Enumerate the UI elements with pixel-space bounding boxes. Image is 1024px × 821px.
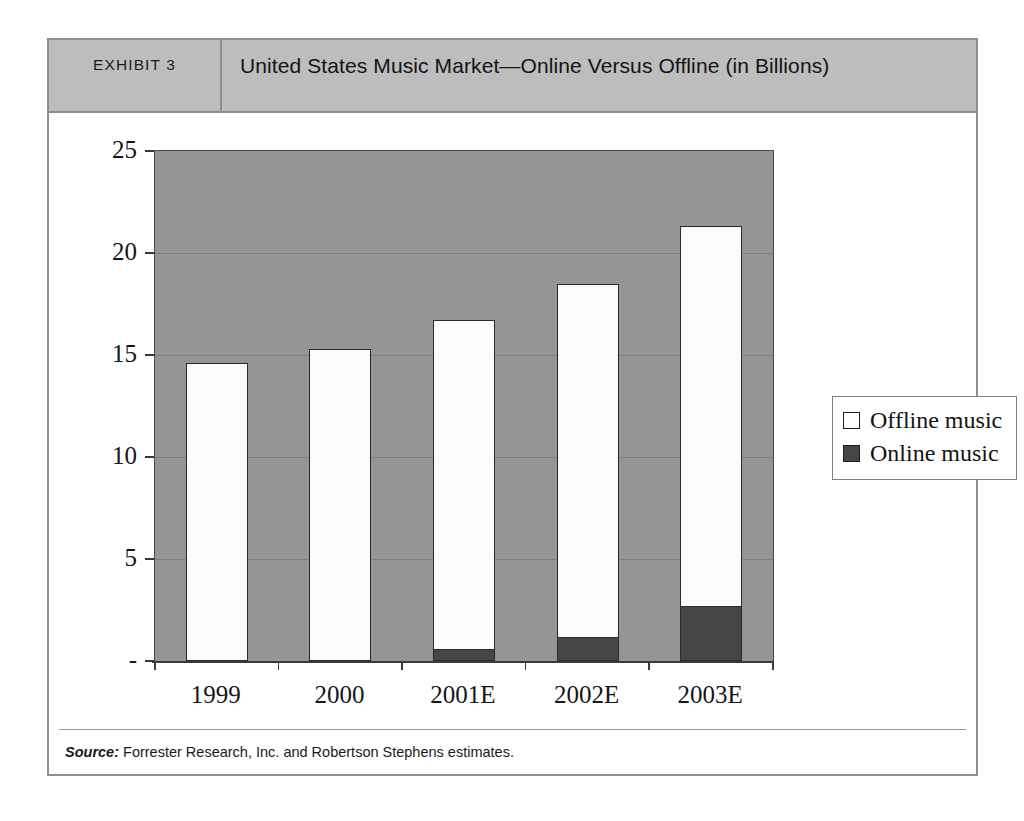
x-tick-label: 2003E [678,681,743,709]
x-tick-mark [772,661,774,670]
source-note: Source: Forrester Research, Inc. and Rob… [65,744,514,760]
x-tick-label: 2001E [430,681,495,709]
y-tick-label: 25 [112,136,137,164]
x-axis-line [152,661,774,663]
bar-segment-online [680,606,742,661]
bar-group [680,226,742,661]
x-tick-label: 1999 [191,681,241,709]
bar-segment-offline [680,226,742,605]
y-tick-mark [145,456,154,458]
source-divider [59,729,966,730]
y-tick-mark [145,558,154,560]
legend-swatch-online-icon [843,445,860,462]
chart-legend: Offline music Online music [832,396,1017,480]
bar-group [186,363,248,661]
bar-group [433,320,495,661]
exhibit-container: EXHIBIT 3 United States Music Market—Onl… [47,38,978,776]
legend-label-offline: Offline music [870,407,1002,434]
x-tick-label: 2002E [554,681,619,709]
bar-group [557,284,619,661]
x-tick-label: 2000 [314,681,364,709]
x-tick-mark [278,661,280,670]
x-tick-mark [648,661,650,670]
y-tick-label: - [129,646,137,674]
y-axis: -510152025 [109,150,154,660]
exhibit-number-label: EXHIBIT 3 [49,40,222,111]
plot-area [154,150,774,662]
y-tick-label: 20 [112,238,137,266]
legend-item-online: Online music [843,437,1002,470]
exhibit-title: United States Music Market—Online Versus… [222,40,976,111]
source-label: Source: [65,744,119,760]
bar-segment-offline [309,349,371,661]
bar-segment-online [433,649,495,661]
legend-swatch-offline-icon [843,412,860,429]
bar-segment-offline [186,363,248,661]
bar-group [309,349,371,661]
y-tick-label: 10 [112,442,137,470]
source-text: Forrester Research, Inc. and Robertson S… [123,744,514,760]
bar-segment-offline [433,320,495,648]
y-tick-mark [145,354,154,356]
chart-region: -510152025 Offline music Online music So… [49,113,976,774]
bar-segment-online [557,637,619,661]
y-tick-label: 15 [112,340,137,368]
y-tick-label: 5 [125,544,138,572]
y-tick-mark [145,252,154,254]
y-tick-mark [145,150,154,152]
bar-segment-offline [557,284,619,637]
exhibit-header: EXHIBIT 3 United States Music Market—Onl… [49,40,976,113]
x-tick-mark [154,661,156,670]
legend-item-offline: Offline music [843,404,1002,437]
x-tick-mark [401,661,403,670]
legend-label-online: Online music [870,440,999,467]
x-tick-mark [525,661,527,670]
